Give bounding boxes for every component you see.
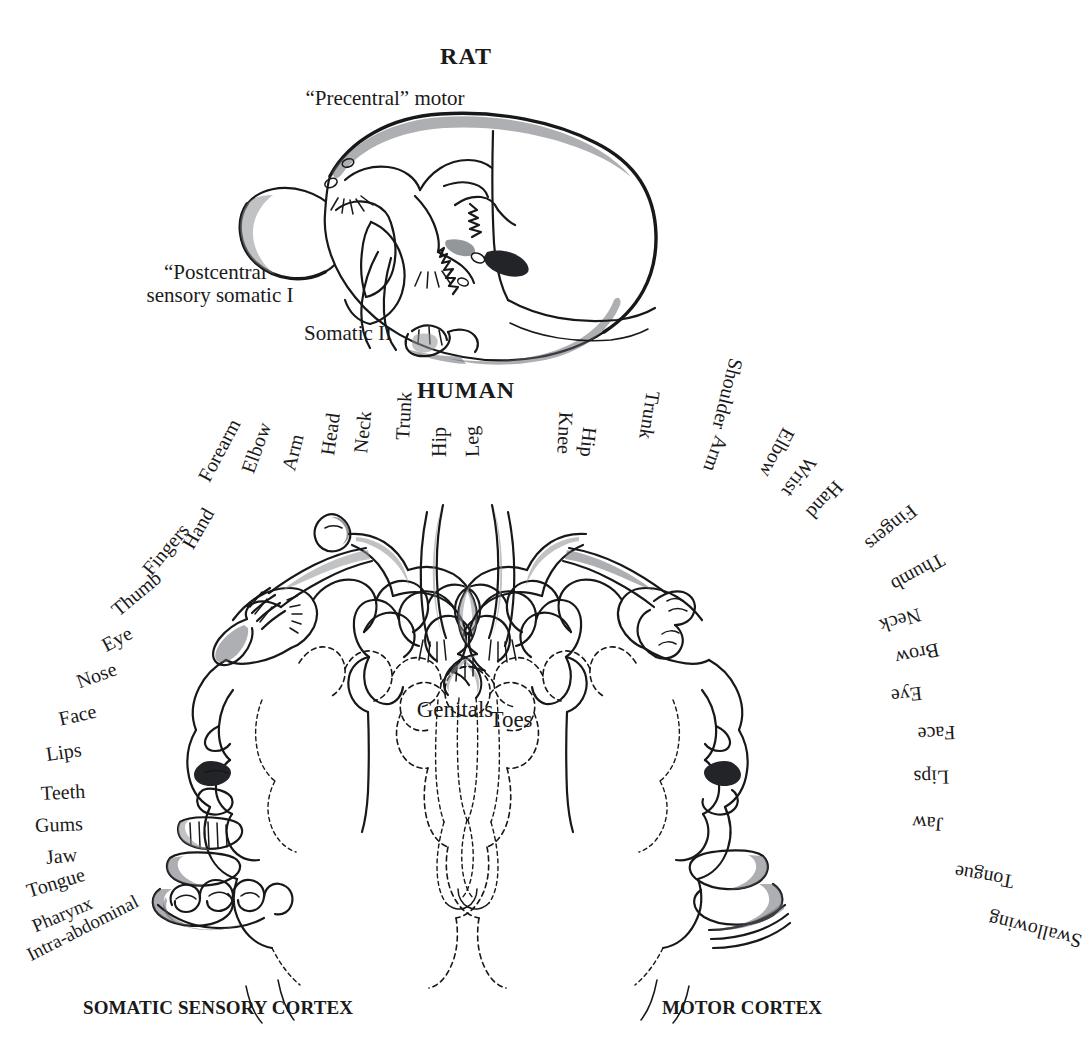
motor-label-face: Face [917,723,956,745]
motor-label-lips: Lips [913,767,949,788]
motor-label-eye: Eye [890,684,923,707]
sensory-label-lips: Lips [45,739,83,764]
sensory-label-trunk: Trunk [392,391,414,440]
sensory-label-gums: Gums [35,813,83,835]
sensory-label-jaw: Jaw [45,844,78,867]
motor-label-tongue: Tongue [953,862,1015,892]
motor-label-swallowing: Swallowing [986,909,1084,952]
sensory-label-leg: Leg [461,426,482,458]
motor-label-knee: Knee [554,411,576,454]
sensory-label-neck: Neck [350,410,374,454]
center-label-toes: Toes [489,708,532,731]
caption-motor-cortex: MOTOR CORTEX [662,998,822,1017]
center-label-genitals: Genitals [417,698,494,721]
motor-label-hip: Hip [577,426,600,458]
sensory-label-teeth: Teeth [40,781,85,803]
sensory-label-hip: Hip [429,427,449,457]
motor-label-jaw: Jaw [912,813,944,835]
caption-somatic-sensory-cortex: SOMATIC SENSORY CORTEX [83,998,353,1017]
